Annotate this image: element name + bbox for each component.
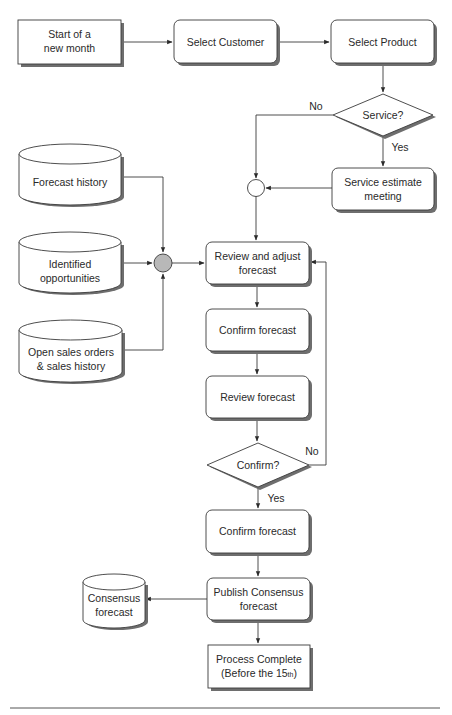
node-publish-consensus: Publish Consensus forecast bbox=[207, 578, 313, 623]
node-select-customer: Select Customer bbox=[174, 20, 280, 66]
node-publish-consensus-line-2: forecast bbox=[240, 600, 277, 612]
node-start-line-2: new month bbox=[44, 42, 96, 54]
node-service-decision: Service? bbox=[333, 94, 436, 139]
node-confirm-decision-label: Confirm? bbox=[237, 459, 280, 471]
node-open-sales-orders: Open sales orders & sales history bbox=[19, 320, 125, 384]
node-process-complete-line-2: (Before the 15th) bbox=[221, 667, 297, 679]
edge-history-to-merge bbox=[121, 177, 163, 252]
node-forecast-history: Forecast history bbox=[19, 144, 124, 207]
node-service-estimate-line-2: meeting bbox=[364, 190, 402, 202]
node-review-adjust-line-2: forecast bbox=[239, 264, 276, 276]
node-consensus-forecast: Consensus forecast bbox=[83, 574, 148, 630]
node-review-adjust-line-1: Review and adjust bbox=[215, 250, 301, 262]
edge-label-confirm-yes: Yes bbox=[267, 492, 284, 504]
node-open-sales-orders-line-2: & sales history bbox=[37, 360, 106, 372]
node-start: Start of a new month bbox=[18, 20, 124, 67]
node-select-product: Select Product bbox=[331, 20, 437, 66]
node-confirm-forecast-2-label: Confirm forecast bbox=[219, 525, 296, 537]
node-consensus-forecast-line-1: Consensus bbox=[88, 592, 141, 604]
edge-orders-to-merge bbox=[122, 274, 163, 350]
edge-label-service-yes: Yes bbox=[391, 141, 408, 153]
node-review-forecast: Review forecast bbox=[206, 376, 312, 421]
node-process-complete: Process Complete (Before the 15th) bbox=[208, 645, 313, 691]
node-review-adjust: Review and adjust forecast bbox=[206, 242, 312, 287]
node-service-estimate-line-1: Service estimate bbox=[344, 176, 422, 188]
node-confirm-decision: Confirm? bbox=[207, 443, 312, 490]
edge-label-service-no: No bbox=[309, 100, 323, 112]
node-confirm-forecast-2: Confirm forecast bbox=[206, 510, 312, 556]
node-select-product-label: Select Product bbox=[348, 36, 416, 48]
node-service-decision-label: Service? bbox=[363, 109, 404, 121]
node-identified-opportunities-line-2: opportunities bbox=[40, 272, 100, 284]
node-forecast-history-label: Forecast history bbox=[33, 176, 108, 188]
node-confirm-forecast-1-label: Confirm forecast bbox=[219, 324, 296, 336]
node-process-complete-line-1: Process Complete bbox=[216, 653, 302, 665]
edge-service-no bbox=[256, 115, 333, 178]
node-identified-opportunities: Identified opportunities bbox=[19, 232, 124, 295]
flowchart: Start of a new month Select Customer Sel… bbox=[0, 0, 452, 715]
node-review-forecast-label: Review forecast bbox=[220, 391, 295, 403]
node-confirm-forecast-1: Confirm forecast bbox=[206, 309, 312, 354]
node-identified-opportunities-line-1: Identified bbox=[49, 258, 92, 270]
node-start-line-1: Start of a bbox=[48, 28, 91, 40]
node-select-customer-label: Select Customer bbox=[187, 36, 265, 48]
edge-label-confirm-no: No bbox=[305, 445, 319, 457]
edge-confirm-no-loop bbox=[309, 262, 326, 465]
node-service-estimate: Service estimate meeting bbox=[332, 168, 437, 213]
node-consensus-forecast-line-2: forecast bbox=[95, 606, 132, 618]
node-open-sales-orders-line-1: Open sales orders bbox=[28, 346, 114, 358]
node-publish-consensus-line-1: Publish Consensus bbox=[214, 586, 304, 598]
merge-circle-service bbox=[248, 180, 265, 197]
merge-circle-inputs bbox=[154, 254, 172, 272]
